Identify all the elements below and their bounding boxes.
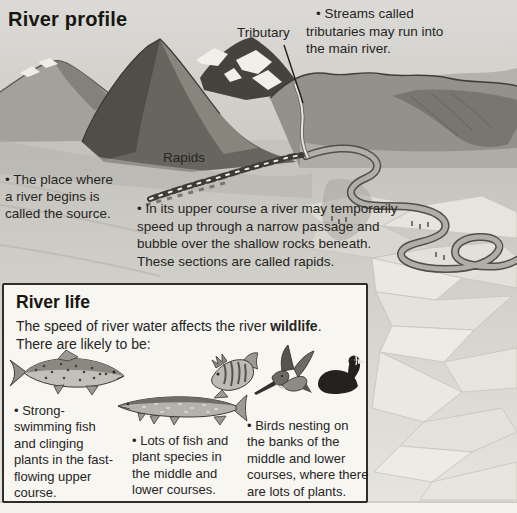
tributaries-note: • Streams called tributaries may run int… [306, 5, 511, 58]
intro-bold-word: wildlife [270, 318, 317, 334]
source-note: • The place where a river begins is call… [5, 171, 155, 222]
upper-course-note: • In its upper course a river may tempor… [137, 200, 457, 270]
intro-period: . [318, 318, 322, 334]
intro-text: The speed of river water affects the riv… [16, 318, 270, 334]
bullet-upper-course: • Strong- swimming fish and clinging pla… [14, 403, 126, 501]
bullet-birds: • Birds nesting on the banks of the midd… [247, 418, 375, 500]
river-life-heading: River life [16, 292, 90, 313]
river-life-box: River life The speed of river water affe… [2, 283, 368, 503]
tributary-label: Tributary [237, 25, 290, 40]
rapids-label: Rapids [163, 150, 205, 165]
coot-icon [314, 352, 366, 396]
trout-icon [6, 348, 128, 398]
book-page: River profile Tributary Rapids • Streams… [0, 0, 517, 513]
pike-icon [114, 387, 248, 429]
bullet-middle-course: • Lots of fish and plant species in the … [132, 433, 248, 499]
kingfisher-icon [252, 343, 316, 399]
page-title: River profile [8, 8, 127, 31]
